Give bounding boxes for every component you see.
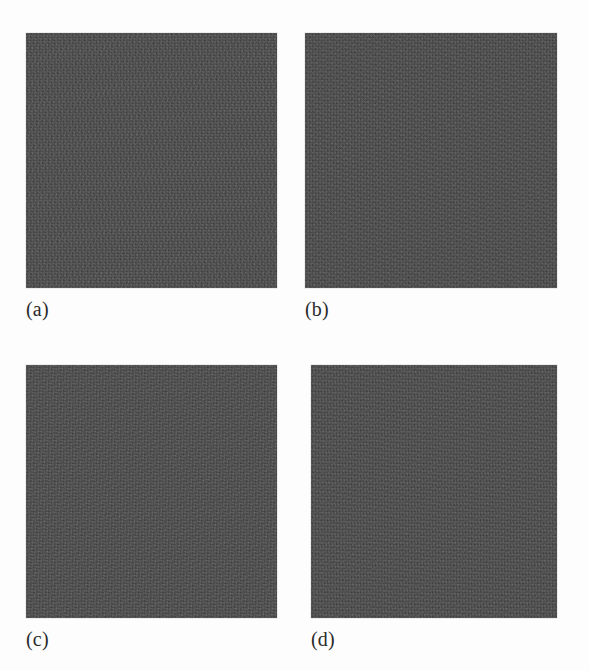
figure-panel-d	[311, 365, 557, 618]
panel-label-c: (c)	[26, 628, 49, 650]
figure-panel-c	[26, 365, 277, 618]
figure-panel-a	[26, 33, 277, 288]
panel-label-b: (b)	[305, 298, 329, 320]
figure-panel-b	[305, 33, 557, 288]
panel-image-b	[305, 33, 557, 288]
panel-image-d	[311, 365, 557, 618]
panel-image-a	[26, 33, 277, 288]
panel-image-c	[26, 365, 277, 618]
figure-sheet: (a) (b) (c) (d)	[0, 0, 589, 671]
panel-label-a: (a)	[26, 298, 49, 320]
panel-label-d: (d)	[311, 628, 335, 650]
